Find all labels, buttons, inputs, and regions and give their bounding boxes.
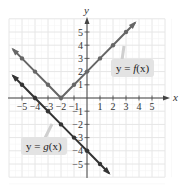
g-callout-label: y = g(x) [21, 137, 67, 155]
y-tick-label: −2 [72, 119, 83, 130]
y-axis-label: y [83, 4, 89, 16]
f-label-arg: (x) [136, 62, 149, 74]
g-label-prefix: y = [26, 140, 43, 152]
x-axis-arrow-icon [163, 96, 170, 101]
data-point [111, 43, 115, 47]
data-point [98, 162, 102, 166]
x-tick-label: 3 [124, 101, 129, 112]
f-callout-label: y = f(x) [111, 59, 154, 77]
data-point [72, 135, 76, 139]
data-point [20, 83, 24, 87]
data-point [85, 149, 89, 153]
x-tick-label: −2 [56, 101, 67, 112]
y-tick-label: −1 [72, 106, 83, 117]
x-tick-label: 5 [150, 101, 155, 112]
x-tick-label: 4 [137, 101, 142, 112]
y-tick-label: 4 [78, 40, 83, 51]
data-point [33, 69, 37, 73]
data-point [46, 83, 50, 87]
data-point [20, 56, 24, 60]
data-point [124, 30, 128, 34]
data-point [85, 69, 89, 73]
y-tick-label: 5 [78, 27, 83, 38]
data-point [98, 56, 102, 60]
f-callout-leader [122, 46, 124, 60]
data-point [72, 83, 76, 87]
data-point [46, 109, 50, 113]
x-tick-label: 2 [111, 101, 116, 112]
g-label-arg: (x) [49, 140, 62, 152]
data-point [59, 96, 63, 100]
y-tick-label: 3 [78, 53, 83, 64]
x-tick-label: −5 [17, 101, 28, 112]
y-tick-label: −5 [72, 159, 83, 170]
y-tick-label: −4 [72, 145, 83, 156]
coordinate-plane: xy −5−4−3−2−112345−5−4−3−2−112345 [0, 0, 180, 188]
f-label-prefix: y = [116, 62, 133, 74]
data-point [33, 96, 37, 100]
x-tick-label: 1 [98, 101, 103, 112]
data-point [59, 122, 63, 126]
x-axis-label: x [172, 91, 178, 103]
y-axis-arrow-icon [85, 17, 90, 24]
